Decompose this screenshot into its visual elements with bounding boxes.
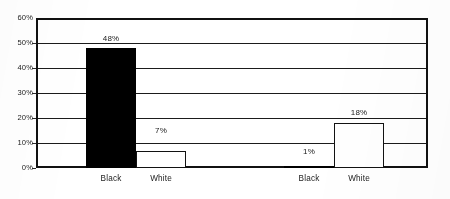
y-tick-label: 50% (3, 39, 33, 47)
gridline-50 (38, 43, 426, 44)
y-tick-mark (32, 168, 36, 169)
gridline-30 (38, 93, 426, 94)
y-tick-label: 30% (3, 89, 33, 97)
category-label-group1-white: White (136, 174, 186, 183)
category-label-group2-white: White (334, 174, 384, 183)
y-tick-label: 20% (3, 114, 33, 122)
category-label-group1-black: Black (86, 174, 136, 183)
y-tick-label: 40% (3, 64, 33, 72)
gridline-10 (38, 143, 426, 144)
bar-chart: 60% 50% 40% 30% 20% 10% 0% 48% 7% 1% 18% (0, 0, 450, 199)
y-tick-label: 60% (3, 14, 33, 22)
value-label-group2-black: 1% (284, 147, 334, 156)
y-axis: 60% 50% 40% 30% 20% 10% 0% (0, 18, 33, 168)
y-tick-label: 0% (3, 164, 33, 172)
value-label-group1-black: 48% (86, 34, 136, 43)
gridline-40 (38, 68, 426, 69)
value-label-group1-white: 7% (136, 126, 186, 135)
gridline-20 (38, 118, 426, 119)
y-tick-label: 10% (3, 139, 33, 147)
category-label-group2-black: Black (284, 174, 334, 183)
value-label-group2-white: 18% (334, 108, 384, 117)
